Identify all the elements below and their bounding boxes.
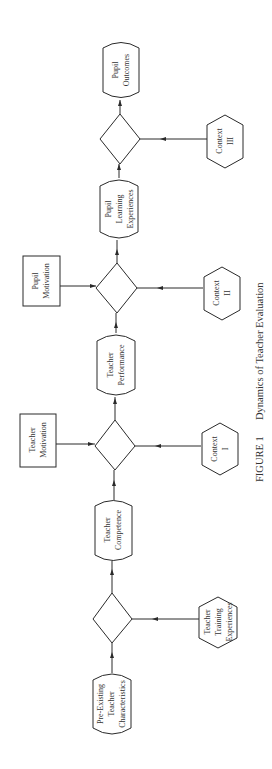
node-label-line: Context (210, 436, 219, 462)
node-label-line: III (226, 137, 235, 145)
figure-label: FIGURE 1 (254, 436, 265, 482)
node-label-line: Teacher (203, 609, 212, 635)
arrow-right-icon (88, 442, 94, 446)
arrow-up-icon (114, 322, 118, 328)
node-pupil-motivation: Pupil Motivation (23, 256, 60, 306)
figure-title: Dynamics of Teacher Evaluation (254, 282, 265, 420)
node-label-line: Performance (117, 344, 126, 385)
arrow-up-icon (112, 480, 116, 486)
node-teacher-competence: Teacher Competence (95, 501, 132, 561)
node-label-line: Context (212, 280, 221, 306)
node-pre-existing-teacher-characteristics: Pre-Existing Teacher Characteristics (93, 674, 131, 734)
decision-diamond-1 (93, 593, 132, 643)
node-label-line: Competence (114, 510, 123, 550)
decision-diamond-2 (95, 420, 135, 470)
node-label-line: Training (214, 608, 223, 635)
node-label-line: Teacher (106, 352, 115, 378)
node-label-line: Teacher (28, 427, 37, 453)
node-label-line: Learning (115, 195, 124, 224)
node-label-line: Characteristics (118, 680, 127, 728)
arrow-up-icon (115, 249, 119, 255)
node-pupil-learning-experiences: Pupil Learning Experiences (100, 180, 138, 238)
node-context-iii: Context III (207, 115, 243, 168)
decision-diamond-4 (100, 114, 140, 164)
node-context-i: Context I (202, 423, 238, 475)
arrow-left-icon (155, 444, 161, 448)
node-label-line: Teacher (107, 691, 116, 717)
arrow-left-icon (152, 617, 158, 621)
arrow-up-icon (110, 569, 114, 575)
node-label-line: Outcomes (122, 54, 131, 86)
node-teacher-motivation: Teacher Motivation (20, 414, 56, 467)
arrow-up-icon (113, 398, 117, 404)
arrow-up-icon (118, 100, 122, 106)
node-context-ii: Context II (204, 267, 240, 320)
arrow-left-icon (160, 137, 166, 141)
node-label-line: Pupil (111, 61, 120, 79)
node-label-line: Pupil (104, 200, 113, 218)
arrow-right-icon (90, 284, 96, 288)
flow-diagram: Pre-Existing Teacher Characteristics Tea… (0, 0, 272, 769)
node-label-line: Context (215, 128, 224, 154)
node-teacher-performance: Teacher Performance (97, 335, 135, 395)
arrow-left-icon (157, 286, 163, 290)
arrow-up-icon (117, 164, 121, 170)
decision-diamond-3 (96, 263, 137, 313)
node-label-line: Pupil (31, 272, 40, 290)
node-label-line: Motivation (42, 263, 51, 299)
node-label-line: Pre-Existing (96, 684, 105, 724)
node-label-line: Teacher (103, 517, 112, 543)
node-label-line: II (223, 290, 232, 296)
arrow-up-icon (110, 652, 114, 658)
node-teacher-training-experiences: Teacher Training Experiences (199, 597, 237, 648)
figure-caption: FIGURE 1 Dynamics of Teacher Evaluation (254, 282, 265, 482)
node-label-line: Experiences (126, 189, 135, 228)
node-label-line: Experiences (225, 602, 234, 641)
node-pupil-outcomes: Pupil Outcomes (103, 43, 139, 98)
node-label-line: I (221, 447, 230, 450)
node-label-line: Motivation (39, 422, 48, 458)
